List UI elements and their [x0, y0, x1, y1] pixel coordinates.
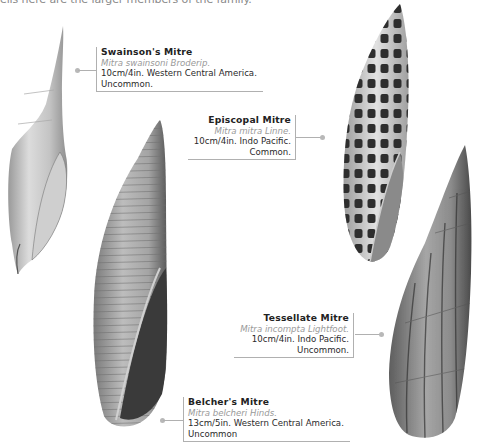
- tessellate-mitre-size-range: 10cm/4in. Indo Pacific.: [240, 334, 349, 345]
- tessellate-mitre-shell-image: [385, 143, 475, 443]
- tessellate-leader-dot: [379, 332, 384, 337]
- episcopal-mitre-rarity: Common.: [194, 147, 291, 158]
- belchers-leader-line: [163, 420, 183, 421]
- swainsons-mitre-callout: Swainson's Mitre Mitra swainsoni Broderi…: [96, 47, 263, 92]
- intro-caption: ells here are the larger members of the …: [0, 0, 252, 6]
- episcopal-leader-dot: [320, 135, 325, 140]
- episcopal-mitre-name: Episcopal Mitre: [194, 115, 291, 126]
- swainsons-mitre-shell-image: [2, 24, 74, 276]
- belchers-mitre-callout: Belcher's Mitre Mitra belcheri Hinds. 13…: [183, 397, 350, 442]
- belchers-mitre-shell-image: [90, 118, 170, 428]
- tessellate-leader-line: [355, 334, 380, 335]
- belchers-mitre-rarity: Uncommon: [188, 429, 344, 440]
- swainsons-leader-line: [78, 70, 97, 71]
- swainsons-mitre-size-range: 10cm/4in. Western Central America.: [101, 68, 257, 79]
- swainsons-mitre-rarity: Uncommon.: [101, 79, 257, 90]
- belchers-mitre-name: Belcher's Mitre: [188, 397, 344, 408]
- belchers-mitre-scientific-name: Mitra belcheri Hinds.: [188, 408, 344, 419]
- episcopal-mitre-scientific-name: Mitra mitra Linne.: [194, 126, 291, 137]
- tessellate-mitre-callout: Tessellate Mitre Mitra incompta Lightfoo…: [234, 313, 354, 358]
- belchers-mitre-size-range: 13cm/5in. Western Central America.: [188, 418, 344, 429]
- episcopal-mitre-callout: Episcopal Mitre Mitra mitra Linne. 10cm/…: [188, 115, 296, 160]
- tessellate-mitre-name: Tessellate Mitre: [240, 313, 349, 324]
- tessellate-mitre-rarity: Uncommon.: [240, 345, 349, 356]
- swainsons-mitre-scientific-name: Mitra swainsoni Broderip.: [101, 58, 257, 69]
- episcopal-leader-line: [296, 137, 321, 138]
- swainsons-mitre-name: Swainson's Mitre: [101, 47, 257, 58]
- episcopal-mitre-size-range: 10cm/4in. Indo Pacific.: [194, 136, 291, 147]
- tessellate-mitre-scientific-name: Mitra incompta Lightfoot.: [240, 324, 349, 335]
